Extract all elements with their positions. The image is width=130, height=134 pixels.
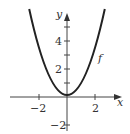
x-tick-label: −2 [30,102,46,115]
y-tick-label: 2 [55,63,62,76]
y-tick-label: −2 [50,119,66,132]
x-axis-label: x [117,96,124,109]
function-graph: −2 2 −2 2 4 x y f [0,0,130,134]
y-axis-label: y [55,8,63,21]
y-axis-arrow-icon [64,13,70,21]
function-label: f [97,52,104,65]
y-tick-label: 4 [55,35,62,48]
x-tick-label: 2 [92,102,99,115]
